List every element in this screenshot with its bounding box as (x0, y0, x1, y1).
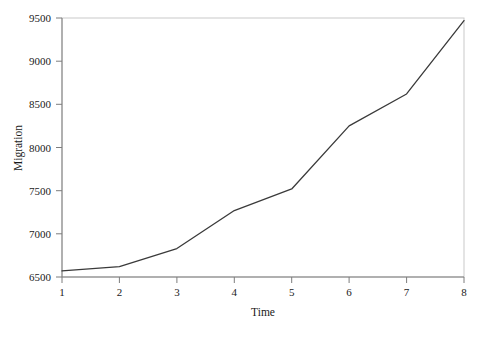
y-tick-marks (56, 18, 62, 277)
x-tick-label: 6 (346, 286, 352, 298)
data-series-line (62, 21, 464, 271)
x-tick-labels: 1 2 3 4 5 6 7 8 (59, 286, 467, 298)
x-tick-label: 4 (232, 286, 238, 298)
y-tick-label: 7500 (29, 185, 52, 197)
y-tick-labels: 6500 7000 7500 8000 8500 9000 9500 (29, 12, 52, 283)
y-tick-label: 9000 (29, 55, 52, 67)
x-tick-label: 7 (404, 286, 410, 298)
y-axis-title: Migration (12, 125, 25, 171)
x-tick-label: 2 (117, 286, 123, 298)
y-tick-label: 8000 (29, 142, 52, 154)
chart-figure: 6500 7000 7500 8000 8500 9000 9500 1 2 3… (0, 0, 480, 337)
x-tick-label: 1 (59, 286, 65, 298)
y-tick-label: 7000 (29, 228, 52, 240)
x-axis-title: Time (251, 306, 275, 318)
y-tick-label: 6500 (29, 271, 52, 283)
plot-frame (62, 18, 464, 277)
y-tick-label: 8500 (29, 98, 52, 110)
x-tick-label: 8 (461, 286, 467, 298)
y-tick-label: 9500 (29, 12, 52, 24)
x-tick-label: 5 (289, 286, 295, 298)
x-tick-label: 3 (174, 286, 180, 298)
x-tick-marks (62, 277, 464, 283)
line-chart: 6500 7000 7500 8000 8500 9000 9500 1 2 3… (0, 0, 480, 337)
